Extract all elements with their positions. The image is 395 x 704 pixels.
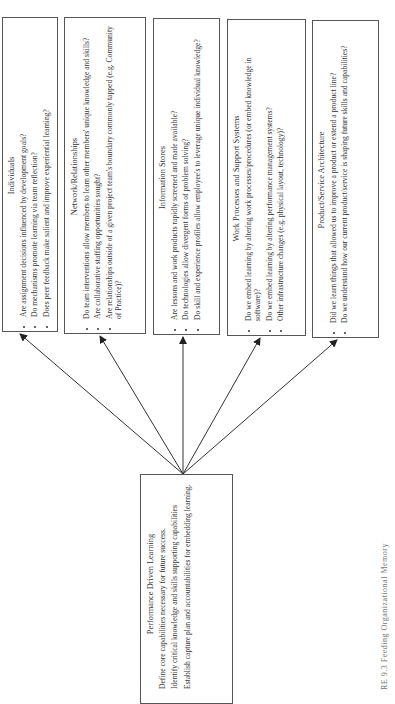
- source-title: Performance Driven Learning: [146, 479, 155, 689]
- source-box-performance-driven-learning: Performance Driven Learning Define core …: [140, 474, 233, 704]
- figure-caption: RE 9.3 Feeding Organizational Memory: [380, 543, 389, 690]
- source-item: Define core capabilities necessary for f…: [158, 479, 167, 689]
- arrow-to-product-service: [183, 340, 337, 474]
- source-item: Identify critical knowledge and skills s…: [170, 479, 179, 689]
- source-item: Establish capture plan and accountabilit…: [183, 479, 192, 689]
- arrow-to-individuals: [20, 334, 183, 474]
- arrow-to-network: [100, 336, 183, 474]
- arrow-to-work-processes: [183, 338, 260, 474]
